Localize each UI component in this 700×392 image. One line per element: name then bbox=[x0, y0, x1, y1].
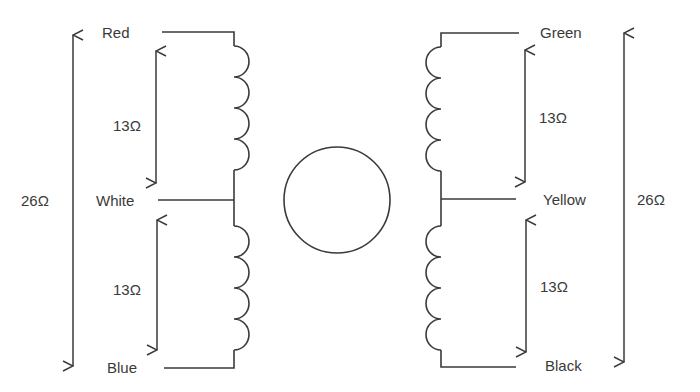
left-top-inductor bbox=[234, 46, 249, 170]
label-right-26ohm: 26Ω bbox=[637, 191, 665, 208]
label-left-26ohm: 26Ω bbox=[21, 192, 49, 209]
motor-rotor-circle bbox=[284, 147, 390, 253]
label-left-top-13ohm: 13Ω bbox=[113, 117, 141, 134]
blue-wire bbox=[164, 350, 234, 368]
label-right-top-13ohm: 13Ω bbox=[539, 109, 567, 126]
label-left-bottom-13ohm: 13Ω bbox=[113, 281, 141, 298]
left-bottom-inductor bbox=[234, 226, 249, 350]
label-yellow: Yellow bbox=[543, 191, 586, 208]
label-green: Green bbox=[540, 24, 582, 41]
right-coil: Green Yellow Black 13Ω 13Ω 26Ω bbox=[426, 24, 665, 374]
label-black: Black bbox=[545, 357, 582, 374]
label-right-bottom-13ohm: 13Ω bbox=[540, 278, 568, 295]
label-blue: Blue bbox=[107, 359, 137, 376]
label-red: Red bbox=[102, 24, 130, 41]
green-wire bbox=[441, 33, 519, 47]
stepper-motor-wiring-diagram: Red White Blue 13Ω 13Ω 26Ω Green Yellow … bbox=[0, 0, 700, 392]
left-coil: Red White Blue 13Ω 13Ω 26Ω bbox=[21, 24, 249, 376]
right-top-inductor bbox=[426, 47, 441, 171]
red-wire bbox=[162, 32, 234, 46]
label-white: White bbox=[96, 192, 134, 209]
black-wire bbox=[441, 350, 516, 367]
right-bottom-inductor bbox=[426, 226, 441, 350]
